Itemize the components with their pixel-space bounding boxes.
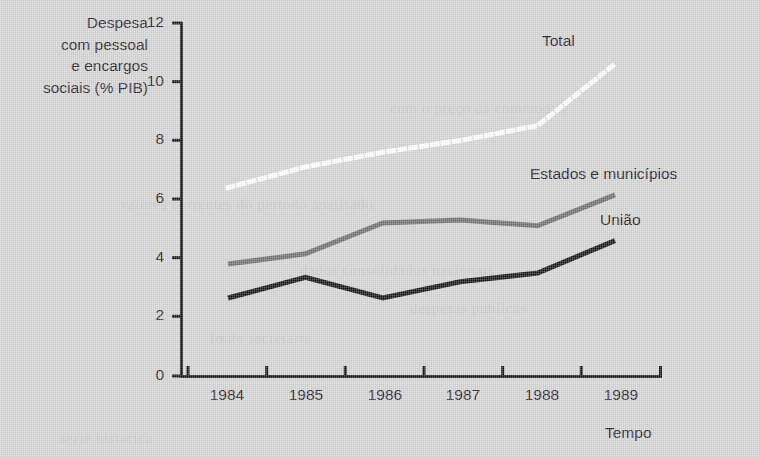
x-tick-label-1985: 1985	[276, 386, 336, 404]
chart-container: Despesa com pessoal e encargos sociais (…	[0, 0, 760, 458]
y-axis-title-line-3: e encargos	[8, 55, 148, 77]
x-tick-label-1988: 1988	[512, 386, 572, 404]
y-axis-title-line-4: sociais (% PIB)	[8, 77, 148, 99]
y-axis-title-line-1: Despesa	[8, 12, 148, 34]
series-annotation-estados-municipios: Estados e municípios	[530, 165, 677, 183]
x-axis-title: Tempo	[605, 424, 652, 442]
y-axis-title: Despesa com pessoal e encargos sociais (…	[8, 12, 148, 98]
series-line-uniao	[228, 241, 615, 298]
y-tick-label-8: 8	[128, 130, 164, 148]
y-tick-label-4: 4	[128, 248, 164, 266]
y-tick-label-10: 10	[128, 72, 164, 90]
y-tick-label-12: 12	[128, 13, 164, 31]
series-annotation-total: Total	[542, 32, 575, 50]
y-tick-label-2: 2	[128, 306, 164, 324]
y-tick-label-6: 6	[128, 189, 164, 207]
y-axis-title-line-2: com pessoal	[8, 34, 148, 56]
x-tick-label-1987: 1987	[433, 386, 493, 404]
x-tick-label-1984: 1984	[197, 386, 257, 404]
y-tick-label-0: 0	[128, 366, 164, 384]
series-line-estados-municipios	[228, 195, 615, 264]
x-tick-label-1989: 1989	[591, 386, 651, 404]
series-annotation-uniao: União	[600, 211, 641, 229]
x-tick-label-1986: 1986	[355, 386, 415, 404]
